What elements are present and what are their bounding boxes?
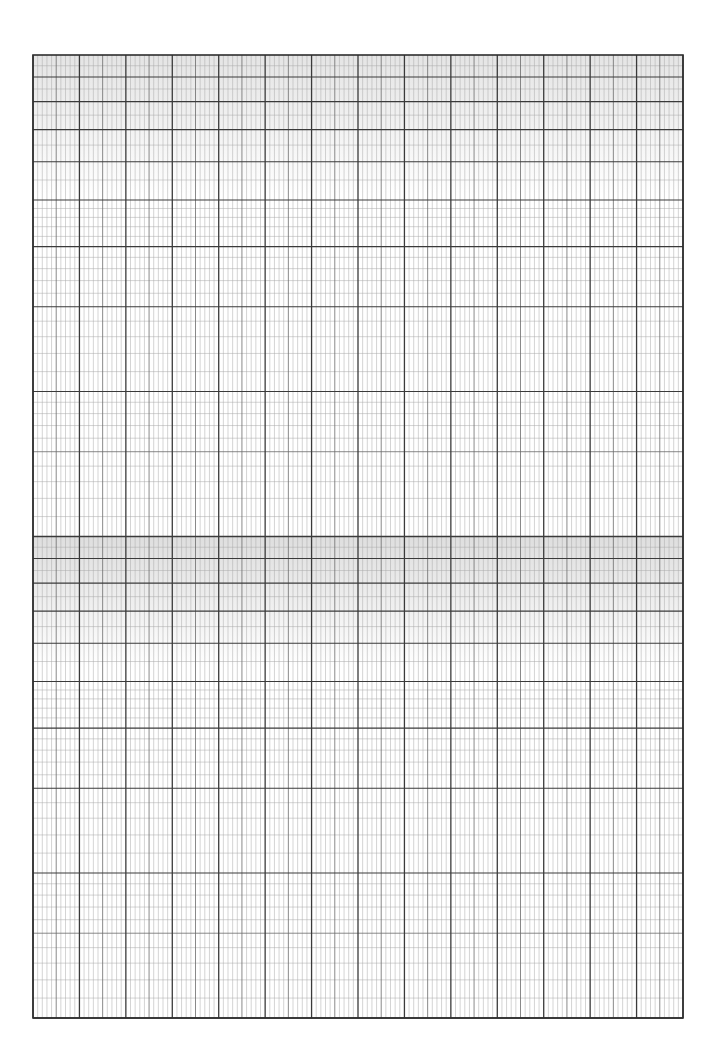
semi-log-graph-paper (0, 0, 713, 1043)
major-grid-lines (33, 55, 683, 1018)
